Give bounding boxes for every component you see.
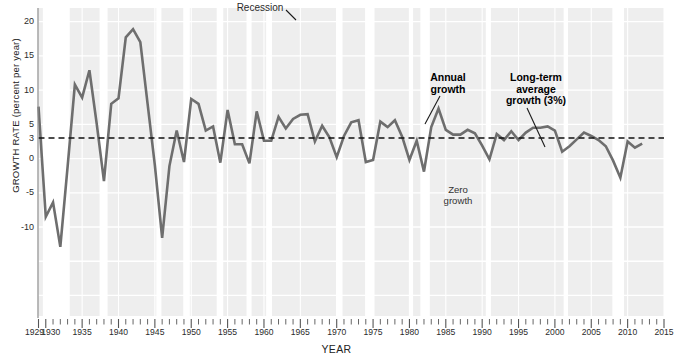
x-tick-label: 1965	[280, 327, 320, 337]
x-tick-label: 2005	[571, 327, 611, 337]
recession-band	[266, 8, 272, 316]
recession-band	[564, 8, 568, 316]
recession-band	[43, 8, 70, 316]
x-tick-label: 2000	[535, 327, 575, 337]
x-tick-label: 1975	[353, 327, 393, 337]
x-tick-label: 1945	[135, 327, 175, 337]
x-tick-label: 1960	[244, 327, 284, 337]
x-tick-label: 1990	[462, 327, 502, 337]
x-tick-label: 2010	[608, 327, 648, 337]
x-axis-title: YEAR	[0, 343, 673, 355]
x-tick-label: 1940	[99, 327, 139, 337]
x-tick-label: 1995	[499, 327, 539, 337]
annotation-annual-growth-line1: Annual	[413, 72, 483, 84]
annotation-annual-growth: Annual growth	[413, 72, 483, 95]
x-tick-label: 1985	[426, 327, 466, 337]
annotation-zero-growth-line2: growth	[430, 195, 486, 206]
x-tick-label: 1970	[317, 327, 357, 337]
y-axis-title: GROWTH RATE (percent per year)	[10, 16, 21, 216]
annotation-long-term-line1: Long-term	[492, 72, 580, 84]
y-tick-label: -10	[4, 223, 34, 232]
annotation-recession: Recession	[215, 2, 305, 14]
recession-band	[156, 8, 161, 316]
annotation-long-term-line3: growth (3%)	[492, 95, 580, 107]
x-tick-label: 2015	[644, 327, 678, 337]
x-tick-label: 1955	[208, 327, 248, 337]
recession-band	[486, 8, 491, 316]
annotation-zero-growth-line1: Zero	[430, 184, 486, 195]
x-tick-label: 1980	[389, 327, 429, 337]
x-tick-label: 1935	[62, 327, 102, 337]
annotation-zero-growth: Zero growth	[430, 184, 486, 206]
plot-background	[39, 8, 665, 316]
x-tick-label: 1950	[171, 327, 211, 337]
annotation-long-term-average: Long-term average growth (3%)	[492, 72, 580, 107]
annotation-annual-growth-line2: growth	[413, 84, 483, 96]
